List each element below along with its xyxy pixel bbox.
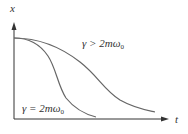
x-axis-arrow-icon <box>161 117 169 122</box>
y-axis-label: x <box>10 3 15 14</box>
overdamping-label: γ > 2mω0 <box>82 38 124 51</box>
critical-damping-label: γ = 2mω0 <box>22 103 64 116</box>
damping-diagram: x t γ > 2mω0 γ = 2mω0 <box>0 0 188 134</box>
critical-damping-label-text: γ = 2mω <box>22 102 60 114</box>
overdamping-label-subscript: 0 <box>120 43 124 51</box>
critical-damping-label-subscript: 0 <box>60 108 64 116</box>
overdamping-label-text: γ > 2mω <box>82 37 120 49</box>
x-axis-label: t <box>175 114 178 125</box>
y-axis-arrow-icon <box>12 22 17 30</box>
